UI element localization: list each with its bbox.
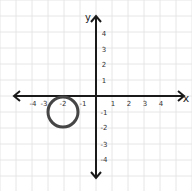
x-axis-label: x	[183, 93, 190, 104]
y-axis-label: y	[85, 13, 91, 23]
x-tick-label: -1	[80, 101, 87, 108]
y-tick-label: -3	[101, 142, 108, 149]
x-tick-label: 4	[159, 101, 163, 108]
x-tick-label: 2	[127, 101, 131, 108]
y-tick-label: -2	[101, 125, 108, 132]
x-tick-label: 3	[143, 101, 147, 108]
x-tick-label: -4	[30, 101, 37, 108]
coordinate-plane: y x -4 -3 -2 -1 1 2 3 4 4 3 2 1 -1 -2 -3…	[0, 0, 192, 191]
x-tick-label: -2	[60, 101, 67, 108]
y-tick-label: -4	[101, 157, 108, 164]
y-tick-label: 2	[102, 62, 106, 69]
y-tick-label: 4	[102, 31, 106, 38]
axes	[0, 0, 192, 191]
x-tick-label: -3	[41, 101, 48, 108]
y-tick-label: 1	[102, 78, 106, 85]
y-tick-label: 3	[102, 47, 106, 54]
y-tick-label: -1	[101, 110, 108, 117]
x-tick-label: 1	[111, 101, 115, 108]
